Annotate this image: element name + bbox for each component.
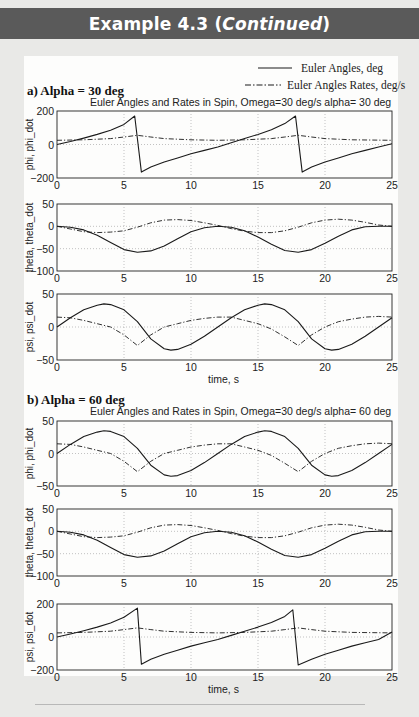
x-tick-label: 5 xyxy=(121,671,127,683)
x-tick-label: 10 xyxy=(185,671,197,683)
x-tick-label: 20 xyxy=(319,671,331,683)
xlabel-b: time, s xyxy=(208,683,239,695)
angle-line xyxy=(57,608,392,665)
footer-divider xyxy=(35,704,365,705)
x-tick-label: 15 xyxy=(252,671,264,683)
y-tick-label: 200 xyxy=(36,598,54,610)
x-tick-label: 0 xyxy=(54,671,60,683)
y-tick-label: 0 xyxy=(48,631,54,643)
rate-line xyxy=(57,628,392,633)
plot-b-psi: 0510152025−2000200psi, psi_dot xyxy=(0,0,419,700)
y-tick-label: −200 xyxy=(30,664,54,676)
y-axis-label: psi, psi_dot xyxy=(24,611,35,662)
x-tick-label: 25 xyxy=(386,671,398,683)
